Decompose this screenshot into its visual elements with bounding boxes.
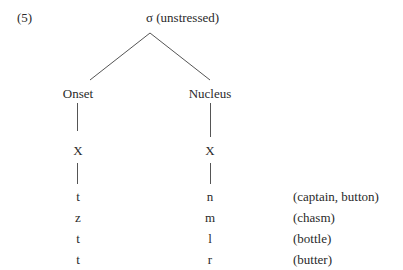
nucleus-timing-slot: X: [205, 144, 214, 157]
nucleus-segment: r: [208, 253, 212, 266]
onset-timing-slot: X: [73, 144, 82, 157]
nucleus-segment: l: [208, 232, 212, 245]
example-words: (butter): [293, 253, 332, 266]
tree-branch-lines: [0, 0, 403, 270]
onset-segment: z: [75, 211, 81, 224]
onset-segment: t: [76, 190, 80, 203]
root-syllable-label: σ (unstressed): [146, 11, 219, 24]
nucleus-label: Nucleus: [189, 87, 232, 100]
example-words: (chasm): [293, 211, 335, 224]
branch-root-to-nucleus: [150, 33, 210, 80]
branch-root-to-onset: [90, 33, 150, 80]
example-number: (5): [17, 11, 32, 24]
example-words: (bottle): [293, 232, 331, 245]
onset-segment: t: [76, 232, 80, 245]
onset-label: Onset: [63, 87, 93, 100]
nucleus-segment: m: [205, 211, 215, 224]
nucleus-segment: n: [207, 190, 214, 203]
onset-segment: t: [76, 253, 80, 266]
example-words: (captain, button): [293, 190, 379, 203]
